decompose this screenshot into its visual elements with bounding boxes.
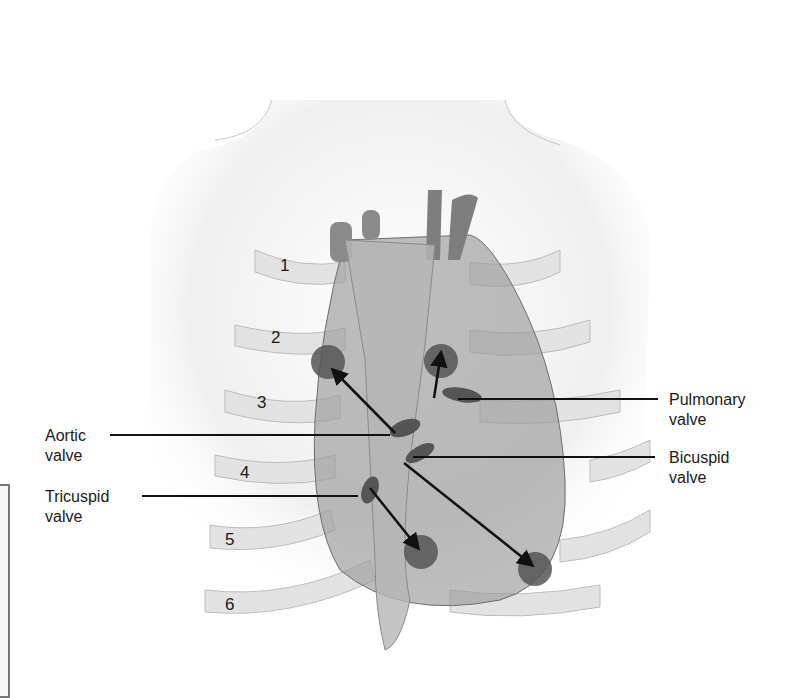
aortic-site-circle bbox=[311, 345, 345, 379]
rib-number-5: 5 bbox=[225, 530, 234, 550]
page-edge-frame bbox=[0, 484, 10, 698]
rib-number-2: 2 bbox=[271, 328, 280, 348]
label-tricuspid-valve: Tricuspid valve bbox=[45, 487, 109, 527]
rib-number-6: 6 bbox=[225, 595, 234, 615]
label-pulmonary-valve: Pulmonary valve bbox=[669, 390, 745, 430]
rib-number-1: 1 bbox=[280, 256, 289, 276]
rib-number-3: 3 bbox=[257, 393, 266, 413]
label-bicuspid-valve: Bicuspid valve bbox=[669, 448, 729, 488]
tricuspid-site-circle bbox=[404, 535, 438, 569]
label-aortic-valve: Aortic valve bbox=[45, 426, 86, 466]
rib-number-4: 4 bbox=[240, 463, 249, 483]
